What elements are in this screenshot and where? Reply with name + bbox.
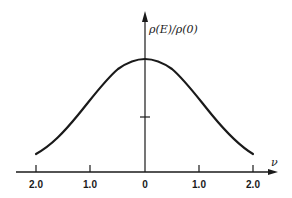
x-tick-label: 1.0 [83, 179, 97, 190]
y-axis-arrow-icon [142, 11, 148, 22]
x-axis [16, 165, 278, 175]
x-tick-label: 2.0 [29, 179, 43, 190]
x-tick-label: 1.0 [192, 179, 206, 190]
x-tick-label: 0 [142, 179, 148, 190]
x-tick-label: 2.0 [246, 179, 260, 190]
x-axis-label: ν [271, 156, 278, 169]
chart-canvas: 2.0 1.0 0 1.0 2.0 ρ(E)/ρ(0) ν [0, 0, 292, 198]
y-axis-label: ρ(E)/ρ(0) [148, 23, 198, 36]
x-axis-arrow-icon [268, 169, 278, 175]
